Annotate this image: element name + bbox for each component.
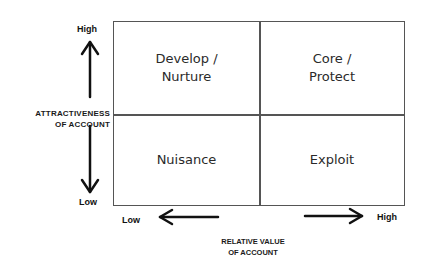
y-axis-low-label: Low: [79, 197, 97, 207]
y-axis-high-label: High: [77, 24, 97, 34]
x-axis-title-line2: OF ACCOUNT: [198, 247, 308, 258]
arrow-down-icon: [82, 126, 98, 192]
x-axis-title: RELATIVE VALUE OF ACCOUNT: [198, 236, 308, 258]
y-axis-title-line1: ATTRACTIVENESS: [20, 108, 110, 119]
x-axis-high-label: High: [377, 212, 397, 222]
y-axis-title-line2: OF ACCOUNT: [20, 119, 110, 130]
arrow-left-icon: [160, 210, 218, 224]
y-axis-title: ATTRACTIVENESS OF ACCOUNT: [20, 108, 110, 130]
axis-arrows: [0, 0, 426, 270]
arrow-right-icon: [305, 209, 362, 223]
x-axis-title-line1: RELATIVE VALUE: [198, 236, 308, 247]
arrow-up-icon: [82, 42, 98, 97]
x-axis-low-label: Low: [122, 215, 140, 225]
